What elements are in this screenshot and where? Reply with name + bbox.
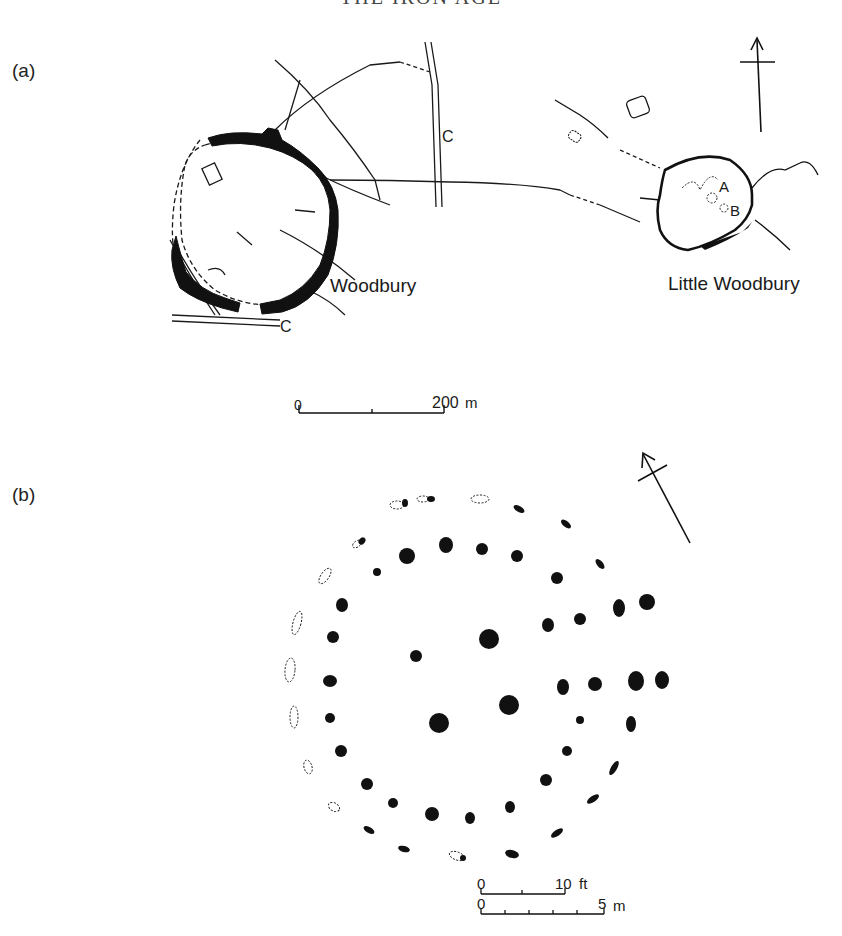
- site-plans-figure: Woodbury C C A B Little Woodbury 0 200 m: [0, 0, 842, 936]
- post-holes-conjectural: [284, 495, 489, 862]
- scale-a-start: 0: [294, 397, 302, 413]
- feature-label-a: A: [719, 178, 729, 195]
- post-holes-solid: [323, 496, 669, 861]
- scale-m-start: 0: [477, 895, 485, 912]
- scale-a-unit: m: [465, 394, 478, 411]
- road-label-c-south: C: [280, 318, 292, 335]
- feature-label-b: B: [730, 202, 740, 219]
- site-label-little-woodbury: Little Woodbury: [668, 273, 800, 294]
- road-label-c-north: C: [442, 128, 454, 145]
- scale-ft-unit: ft: [579, 875, 588, 892]
- scale-bar-10ft: [481, 888, 565, 894]
- scale-bar-5m: [481, 908, 604, 914]
- scale-m-end: 5: [598, 895, 606, 912]
- scale-ft-end: 10: [555, 875, 572, 892]
- scale-a-end: 200: [432, 394, 459, 411]
- north-arrow-icon: [638, 453, 690, 543]
- scale-ft-start: 0: [477, 875, 485, 892]
- scale-bar-200m: [299, 405, 444, 413]
- scale-m-unit: m: [613, 897, 626, 914]
- little-woodbury-enclosure: [555, 95, 818, 250]
- north-arrow-icon: [740, 38, 775, 132]
- woodbury-rampart: [172, 128, 339, 314]
- site-label-woodbury: Woodbury: [330, 275, 417, 296]
